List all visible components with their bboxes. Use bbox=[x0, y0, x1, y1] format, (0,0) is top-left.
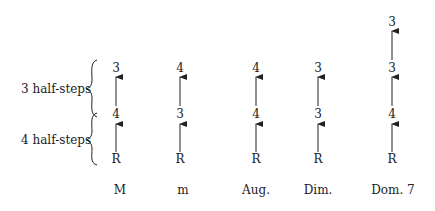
interval-aug-lower: 4 bbox=[246, 108, 266, 120]
chord-label-major: M bbox=[114, 183, 126, 197]
root-minor: R bbox=[170, 153, 190, 165]
chord-label-diminished: Dim. bbox=[304, 183, 333, 197]
interval-dom7-middle: 3 bbox=[382, 62, 402, 74]
interval-m-lower: 4 bbox=[106, 108, 126, 120]
bracket-label-3-half-steps: 3 half-steps bbox=[21, 82, 91, 96]
diagram-lines bbox=[0, 0, 435, 211]
bracket-label-4-half-steps: 4 half-steps bbox=[21, 133, 91, 147]
interval-dom7-top: 3 bbox=[382, 16, 402, 28]
interval-minor-lower: 3 bbox=[170, 108, 190, 120]
interval-dim-lower: 3 bbox=[308, 108, 328, 120]
root-dom7: R bbox=[382, 153, 402, 165]
interval-m-upper: 3 bbox=[106, 62, 126, 74]
chord-label-dominant-7: Dom. 7 bbox=[371, 183, 415, 197]
interval-dom7-lower: 4 bbox=[382, 108, 402, 120]
interval-dim-upper: 3 bbox=[308, 62, 328, 74]
interval-minor-upper: 4 bbox=[170, 62, 190, 74]
chord-label-augmented: Aug. bbox=[242, 183, 270, 197]
root-aug: R bbox=[246, 153, 266, 165]
interval-aug-upper: 4 bbox=[246, 62, 266, 74]
chord-label-minor: m bbox=[177, 183, 188, 197]
root-dim: R bbox=[308, 153, 328, 165]
root-M: R bbox=[106, 153, 126, 165]
